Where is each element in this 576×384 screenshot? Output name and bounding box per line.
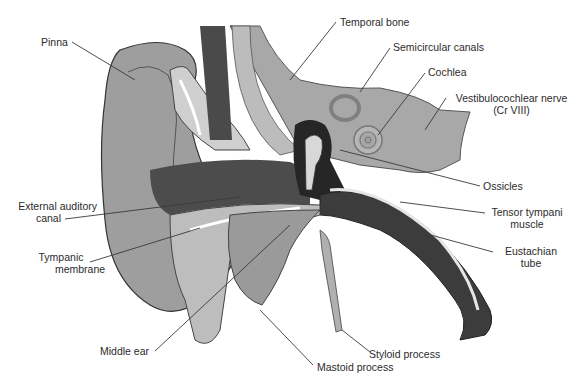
label-cochlea: Cochlea <box>428 66 467 78</box>
label-tensor-tympani-muscle: Tensor tympani muscle <box>482 206 572 230</box>
label-semicircular-canals: Semicircular canals <box>393 41 484 53</box>
styloid-process-shape <box>320 230 342 332</box>
label-eustachian-tube: Eustachian tube <box>496 245 566 269</box>
label-vestibulocochlear-nerve-line2: (Cr VIII) <box>449 104 574 116</box>
label-eustachian-tube-line2: tube <box>496 257 566 269</box>
label-mastoid-process: Mastoid process <box>317 361 393 373</box>
label-middle-ear: Middle ear <box>100 345 149 357</box>
ear-anatomy-diagram: Pinna Temporal bone Semicircular canals … <box>0 0 576 384</box>
ear-illustration <box>0 0 576 384</box>
label-tympanic-membrane-line1: Tympanic <box>20 251 120 263</box>
label-external-auditory-canal-line2: canal <box>5 212 97 224</box>
mastoid-process-shape <box>228 210 320 305</box>
label-external-auditory-canal-line1: External auditory <box>5 200 97 212</box>
label-vestibulocochlear-nerve: Vestibulocochlear nerve (Cr VIII) <box>449 92 574 116</box>
label-tensor-tympani-line1: Tensor tympani <box>482 206 572 218</box>
label-pinna: Pinna <box>41 36 68 48</box>
label-vestibulocochlear-nerve-line1: Vestibulocochlear nerve <box>449 92 574 104</box>
label-tympanic-membrane-line2: membrane <box>20 263 120 275</box>
cochlea-shape <box>354 126 382 154</box>
label-tympanic-membrane: Tympanic membrane <box>20 251 120 275</box>
label-external-auditory-canal: External auditory canal <box>5 200 97 224</box>
label-ossicles: Ossicles <box>483 180 523 192</box>
label-tensor-tympani-line2: muscle <box>482 218 572 230</box>
label-temporal-bone: Temporal bone <box>340 16 409 28</box>
label-eustachian-tube-line1: Eustachian <box>496 245 566 257</box>
label-styloid-process: Styloid process <box>369 348 440 360</box>
